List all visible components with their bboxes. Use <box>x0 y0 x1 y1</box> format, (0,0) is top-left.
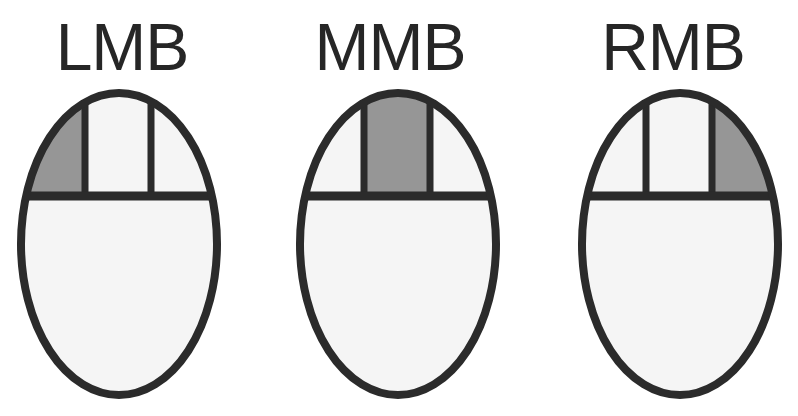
button-middle-mmb[interactable] <box>364 86 430 200</box>
mouse-outline-svg-mmb <box>293 86 503 402</box>
mouse-label-mmb: MMB <box>315 0 466 86</box>
mouse-figure-mmb: MMB <box>266 0 532 416</box>
button-middle-rmb[interactable] <box>646 86 712 200</box>
mouse-button-diagram-row: LMB <box>0 0 798 416</box>
mouse-outline-svg-lmb <box>14 86 224 402</box>
mouse-label-lmb: LMB <box>56 0 189 86</box>
mouse-outline-svg-rmb <box>575 86 785 402</box>
mouse-figure-lmb: LMB <box>0 0 266 416</box>
mouse-figure-rmb: RMB <box>532 0 798 416</box>
mouse-label-rmb: RMB <box>601 0 745 86</box>
button-middle-lmb[interactable] <box>85 86 151 200</box>
mouse-graphic-mmb <box>265 86 531 406</box>
mouse-graphic-rmb <box>547 86 798 406</box>
mouse-graphic-lmb <box>0 86 252 406</box>
